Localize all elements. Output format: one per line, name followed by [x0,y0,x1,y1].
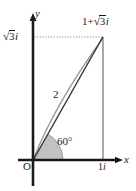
y-intercept-label: √3i [3,30,18,43]
x-axis-label: x [124,154,129,165]
y-axis-label: y [35,8,40,19]
x-axis-arrowhead [115,157,123,164]
point-label: 1+√3i [82,15,109,28]
angle-label: 60° [57,136,72,147]
sqrt-radical-point: √3 [94,15,106,28]
radicand-point: 3 [99,15,105,27]
modulus-label: 2 [53,89,59,100]
imaginary-unit-x: i [103,161,106,172]
radicand-y: 3 [9,30,15,42]
figure-canvas [0,0,136,191]
imaginary-unit-y: i [15,30,18,42]
x-intercept-label: 1i [98,162,106,172]
sqrt-radical-y: √3 [3,30,15,43]
complex-plane-figure: y x √3i 1+√3i 2 60° O 1i [0,0,136,191]
origin-label: O [23,161,31,172]
imaginary-unit-point: i [106,15,109,27]
